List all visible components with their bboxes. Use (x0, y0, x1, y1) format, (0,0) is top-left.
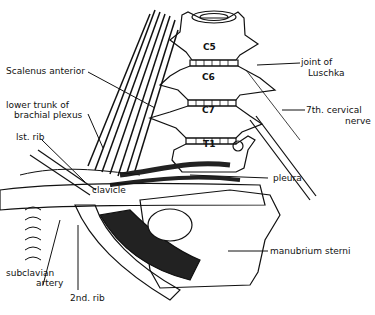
label-second-rib: 2nd. rib (70, 293, 105, 303)
vertebra-label-t1: T1 (203, 139, 215, 149)
diagram-drawing (0, 0, 375, 315)
label-clavicle: clavicle (92, 185, 126, 195)
label-pleura: pleura (273, 173, 302, 183)
vertebra-c6 (160, 66, 275, 100)
vertebra-label-c6: C6 (202, 72, 215, 82)
label-scalenus-anterior: Scalenus anterior (6, 66, 85, 76)
anatomy-diagram: C5 C6 C7 T1 Scalenus anterior lower trun… (0, 0, 375, 315)
label-7th-cervical-1: 7th. cervical (306, 105, 362, 115)
label-joint-of-luschka-2: Luschka (308, 68, 344, 78)
label-lower-trunk-2: brachial plexus (14, 110, 82, 120)
label-joint-of-luschka-1: joint of (301, 57, 332, 67)
vertebra-label-c5: C5 (203, 42, 216, 52)
label-manubrium-sterni: manubrium sterni (270, 246, 350, 256)
vertebra-c5 (170, 12, 258, 60)
label-subclavian-1: subclavian (6, 268, 54, 278)
vertebra-label-c7: C7 (202, 105, 215, 115)
label-lower-trunk-1: lower trunk of (6, 100, 69, 110)
label-7th-cervical-2: nerve (345, 116, 371, 126)
clavicle-shape (0, 183, 265, 210)
label-first-rib: lst. rib (16, 132, 44, 142)
label-subclavian-2: artery (36, 278, 63, 288)
